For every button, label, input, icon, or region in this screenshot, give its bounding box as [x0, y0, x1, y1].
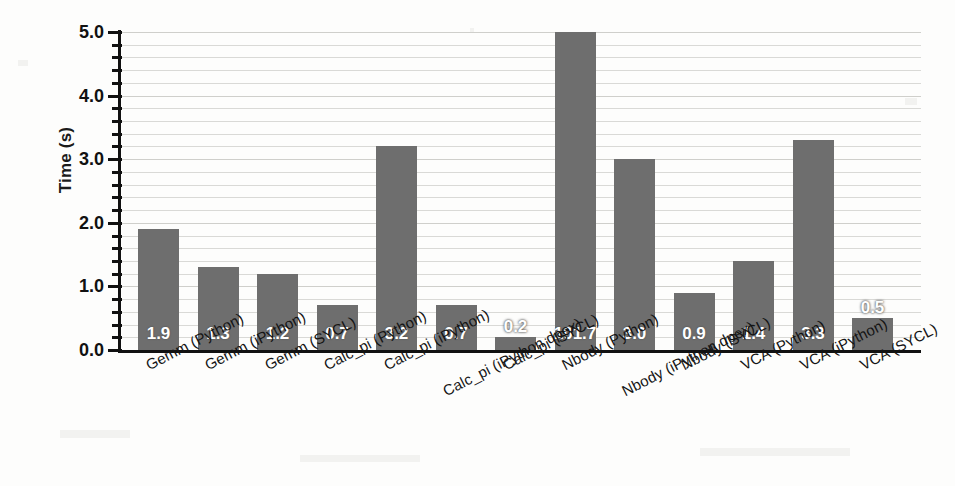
y-tick-label: 0.0 [48, 340, 104, 361]
scan-artifact [700, 448, 850, 456]
scan-artifact [300, 455, 420, 462]
bar-value-label: 0.5 [835, 298, 910, 318]
scan-artifact [18, 60, 28, 66]
y-tick-label: 4.0 [48, 85, 104, 106]
y-tick-label: 3.0 [48, 149, 104, 170]
y-axis-tick-labels: 0.01.02.03.04.05.0 [42, 0, 104, 486]
bar[interactable] [555, 32, 596, 350]
bar-chart: Time (s) 0.01.02.03.04.05.0 1.91.31.20.7… [0, 0, 955, 486]
plot-area [121, 32, 921, 350]
y-tick-label: 5.0 [48, 22, 104, 43]
y-tick-label: 2.0 [48, 212, 104, 233]
y-tick-label: 1.0 [48, 276, 104, 297]
